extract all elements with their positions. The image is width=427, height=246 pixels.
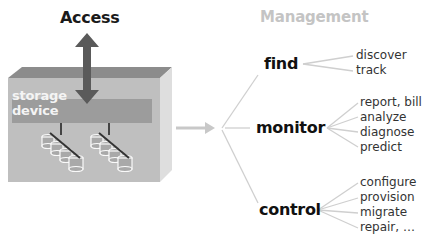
device-label-line1: storage bbox=[12, 88, 67, 103]
item-report-bill: report, bill bbox=[360, 95, 422, 110]
item-track: track bbox=[356, 63, 407, 78]
item-repair: repair, … bbox=[360, 220, 416, 235]
category-monitor: monitor bbox=[256, 118, 325, 137]
device-label-line2: device bbox=[12, 103, 67, 118]
item-diagnose: diagnose bbox=[360, 125, 422, 140]
monitor-items: report, bill analyze diagnose predict bbox=[360, 95, 422, 155]
item-analyze: analyze bbox=[360, 110, 422, 125]
category-find: find bbox=[264, 54, 298, 73]
item-provision: provision bbox=[360, 190, 416, 205]
control-items: configure provision migrate repair, … bbox=[360, 175, 416, 235]
access-label: Access bbox=[60, 8, 119, 27]
item-predict: predict bbox=[360, 140, 422, 155]
item-discover: discover bbox=[356, 48, 407, 63]
storage-device-label: storage device bbox=[12, 88, 67, 118]
item-migrate: migrate bbox=[360, 205, 416, 220]
item-configure: configure bbox=[360, 175, 416, 190]
category-control: control bbox=[259, 200, 321, 219]
connector-arrowhead-icon bbox=[205, 122, 215, 134]
device-side-face bbox=[160, 67, 172, 182]
management-title: Management bbox=[260, 8, 368, 26]
find-items: discover track bbox=[356, 48, 407, 78]
